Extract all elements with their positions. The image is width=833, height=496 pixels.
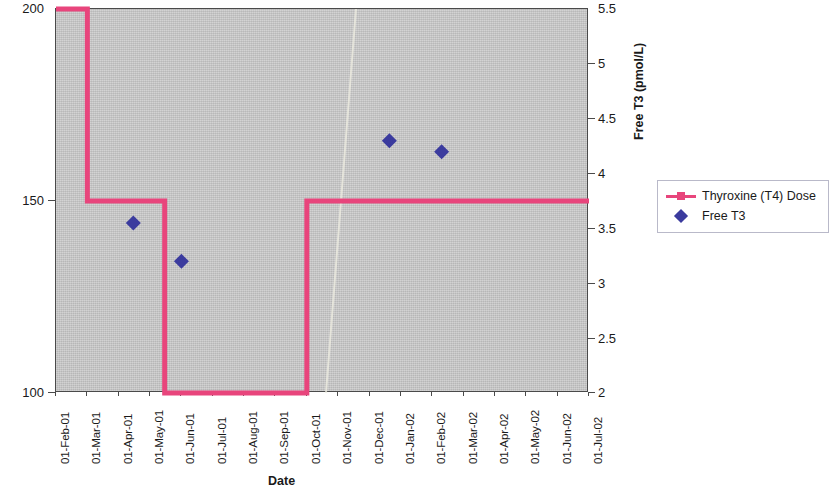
x-tick-label: 01-Oct-01 [310,414,322,464]
y-right-tick-3-5: 3.5 [598,221,638,236]
x-tick-label: 01-Jul-01 [216,417,228,464]
x-tick-label: 01-May-01 [153,410,165,464]
x-tick-label: 01-Mar-02 [467,412,479,464]
data-point-diamond [434,144,449,159]
series-line-t4 [56,9,589,393]
x-tick-label: 01-Jan-02 [404,413,416,464]
x-tick-label: 01-Dec-01 [373,411,385,464]
legend-label-t4: Thyroxine (T4) Dose [698,189,816,203]
x-tick-label: 01-Feb-01 [59,412,71,464]
x-tick-label: 01-Jun-02 [561,413,573,464]
x-tick-label: 01-Aug-01 [247,411,259,464]
y-right-tick-2-5: 2.5 [598,331,638,346]
legend-item-t4: Thyroxine (T4) Dose [664,186,824,206]
y-right-tick-4-5: 4.5 [598,111,638,126]
x-tick-label: 01-Feb-02 [435,412,447,464]
chart-figure: Thyroxine (T4) Dose (mcg) Free T3 (pmol/… [0,0,833,496]
y-right-tick-5: 5 [598,56,638,71]
data-point-diamond [126,215,141,230]
x-tick-label: 01-Apr-01 [122,414,134,464]
y-right-tick-5-5: 5.5 [598,1,638,16]
legend-diamond-icon [664,208,698,224]
x-tick-label: 01-Sep-01 [278,411,290,464]
series-layer [50,3,595,399]
y-left-tick-200: 200 [0,1,44,16]
legend-label-t3: Free T3 [698,209,746,223]
x-tick-label: 01-May-02 [529,410,541,464]
y-right-tick-4: 4 [598,166,638,181]
y-right-tick-3: 3 [598,276,638,291]
legend-item-t3: Free T3 [664,206,824,226]
x-tick-label: 01-Apr-02 [498,414,510,464]
x-axis-title: Date [268,474,295,488]
x-tick-label: 01-Jul-02 [592,417,604,464]
data-point-diamond [174,254,189,269]
legend-line-square-icon [664,188,698,204]
x-tick-label: 01-Jun-01 [184,413,196,464]
y-left-tick-150: 150 [0,193,44,208]
data-point-diamond [382,133,397,148]
legend: Thyroxine (T4) Dose Free T3 [657,180,829,233]
x-tick-label: 01-Mar-01 [90,412,102,464]
x-tick-label: 01-Nov-01 [341,411,353,464]
y-left-tick-100: 100 [0,385,44,400]
plot-area [55,8,588,392]
y-right-tick-2: 2 [598,385,638,400]
